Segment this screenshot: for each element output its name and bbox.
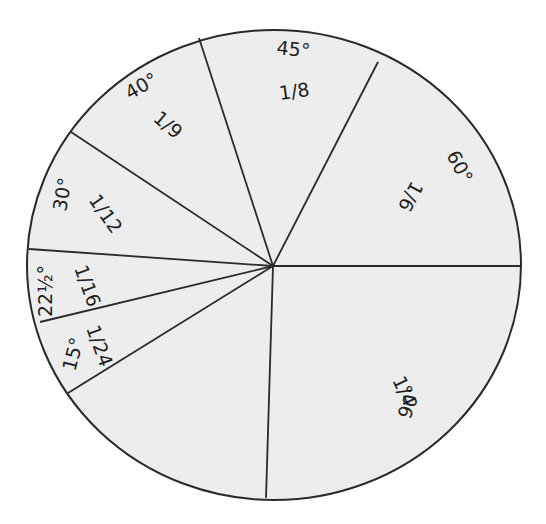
pie-chart: 1/4 90° 60° 1/6 45° 1/8 40° 1/9 30° 1/12…	[0, 0, 546, 524]
slice-45-fraction: 1/8	[277, 78, 310, 104]
slice-22-5-degrees: 22½°	[34, 265, 56, 317]
slice-45-degrees: 45°	[276, 36, 312, 61]
